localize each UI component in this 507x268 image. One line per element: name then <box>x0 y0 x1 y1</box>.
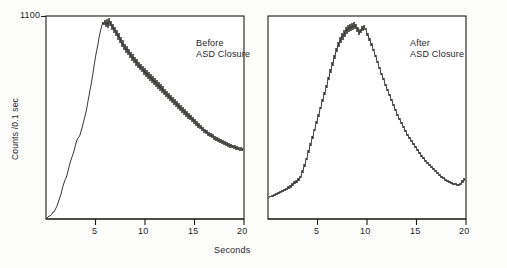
y-tick-label-1100: 1100 <box>20 10 40 21</box>
x-tick-label-before-20: 20 <box>237 226 247 237</box>
x-tick-label-before-15: 15 <box>188 226 198 237</box>
x-tick-label-before-5: 5 <box>92 226 97 237</box>
annotation-after-line2: ASD Closure <box>410 49 464 60</box>
x-tick-label-after-15: 15 <box>410 226 420 237</box>
annotation-before-line1: Before <box>196 38 224 48</box>
figure-root: Counts /0.1 sec 1100 5 10 15 20 5 10 15 … <box>0 0 507 268</box>
y-axis-title: Counts /0.1 sec <box>8 74 22 184</box>
x-tick-label-after-20: 20 <box>459 226 469 237</box>
annotation-after-line1: After <box>410 38 430 48</box>
x-ticks-after <box>318 219 467 225</box>
annotation-before: Before ASD Closure <box>196 38 250 61</box>
x-tick-label-after-10: 10 <box>360 226 370 237</box>
x-axis-title: Seconds <box>214 245 250 256</box>
annotation-before-line2: ASD Closure <box>196 49 250 60</box>
y-axis-title-text: Counts /0.1 sec <box>10 98 21 160</box>
annotation-after: After ASD Closure <box>410 38 464 61</box>
x-tick-label-after-5: 5 <box>314 226 319 237</box>
x-tick-label-before-10: 10 <box>138 226 148 237</box>
x-ticks-before <box>96 219 245 225</box>
